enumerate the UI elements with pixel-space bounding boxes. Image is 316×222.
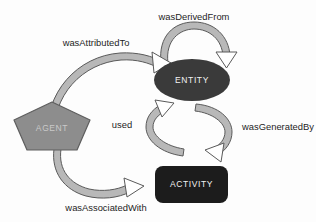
edge-was-associated-with <box>54 149 144 198</box>
was-associated-with-arrowhead <box>124 178 144 197</box>
prov-diagram-canvas: ENTITY AGENT ACTIVITY wasDerivedFrom was… <box>0 0 316 222</box>
edge-label-used: used <box>112 119 132 130</box>
edge-label-was-generated-by: wasGeneratedBy <box>241 121 314 132</box>
edge-label-was-derived-from: wasDerivedFrom <box>158 11 230 22</box>
prov-diagram: ENTITY AGENT ACTIVITY wasDerivedFrom was… <box>0 0 316 222</box>
activity-label: ACTIVITY <box>170 179 213 189</box>
edge-label-was-attributed-to: wasAttributedTo <box>62 37 130 48</box>
entity-label: ENTITY <box>175 75 209 85</box>
edge-was-generated-by <box>195 104 232 162</box>
edge-label-was-associated-with: wasAssociatedWith <box>64 202 146 213</box>
was-associated-with-arc <box>54 149 130 198</box>
was-generated-by-arrowhead <box>205 143 224 162</box>
edge-used <box>146 100 184 156</box>
node-entity[interactable]: ENTITY <box>154 59 230 101</box>
node-activity[interactable]: ACTIVITY <box>155 166 228 203</box>
agent-label: AGENT <box>36 123 68 133</box>
node-agent[interactable]: AGENT <box>14 102 90 150</box>
